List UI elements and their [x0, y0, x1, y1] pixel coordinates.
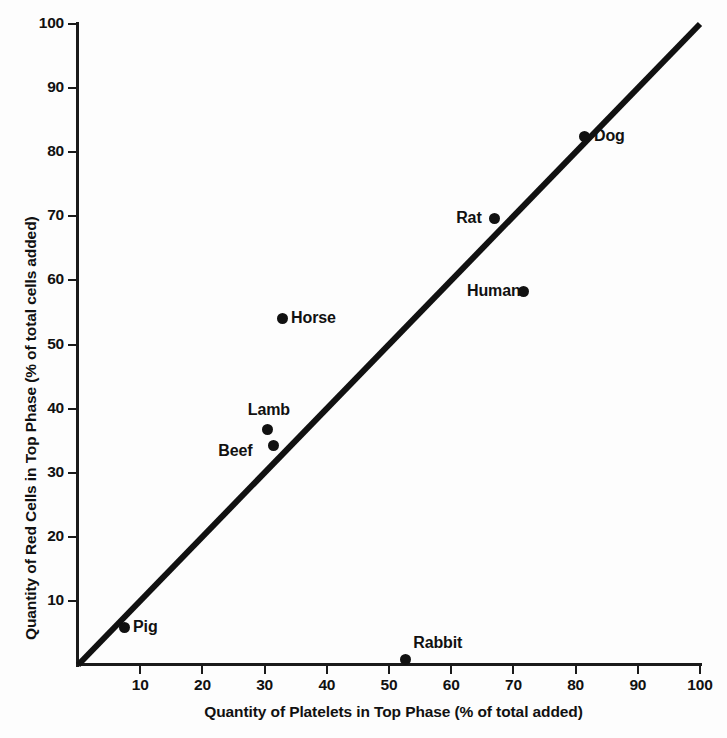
x-tick-label: 50 — [369, 676, 409, 694]
x-tick-label: 70 — [493, 676, 533, 694]
y-tick-mark — [68, 600, 76, 602]
x-tick-mark — [512, 666, 514, 674]
data-point-rabbit[interactable] — [400, 654, 411, 665]
y-tick-mark — [68, 151, 76, 153]
y-tick-label: 80 — [24, 142, 64, 160]
x-tick-label: 80 — [556, 676, 596, 694]
y-tick-mark — [68, 408, 76, 410]
y-tick-mark — [68, 23, 76, 25]
x-tick-mark — [575, 666, 577, 674]
y-axis-line — [76, 22, 79, 667]
x-tick-mark — [388, 666, 390, 674]
x-tick-mark — [264, 666, 266, 674]
y-tick-label: 100 — [24, 14, 64, 32]
x-axis-title: Quantity of Platelets in Top Phase (% of… — [0, 703, 727, 721]
data-point-label-horse: Horse — [291, 309, 336, 327]
x-tick-label: 100 — [680, 676, 720, 694]
x-tick-mark — [699, 666, 701, 674]
x-tick-mark — [637, 666, 639, 674]
x-tick-label: 10 — [120, 676, 160, 694]
x-tick-mark — [326, 666, 328, 674]
data-point-pig[interactable] — [119, 622, 130, 633]
y-tick-mark — [68, 215, 76, 217]
x-tick-label: 90 — [618, 676, 658, 694]
data-point-dog[interactable] — [579, 131, 590, 142]
data-point-label-lamb: Lamb — [248, 401, 290, 419]
data-point-beef[interactable] — [268, 440, 279, 451]
data-point-lamb[interactable] — [262, 424, 273, 435]
data-point-label-human: Human — [467, 282, 521, 300]
plot-area: 102030405060708090100 102030405060708090… — [0, 0, 727, 738]
y-tick-mark — [68, 87, 76, 89]
x-tick-mark — [139, 666, 141, 674]
x-tick-label: 60 — [431, 676, 471, 694]
data-point-label-dog: Dog — [594, 127, 625, 145]
x-tick-mark — [450, 666, 452, 674]
y-tick-mark — [68, 472, 76, 474]
x-tick-label: 40 — [307, 676, 347, 694]
y-tick-label: 90 — [24, 78, 64, 96]
data-point-label-beef: Beef — [218, 442, 252, 460]
x-tick-label: 20 — [182, 676, 222, 694]
x-tick-label: 30 — [245, 676, 285, 694]
data-point-horse[interactable] — [277, 313, 288, 324]
data-point-label-rabbit: Rabbit — [413, 634, 462, 652]
x-tick-mark — [201, 666, 203, 674]
data-point-rat[interactable] — [489, 213, 500, 224]
y-tick-mark — [68, 344, 76, 346]
data-point-label-pig: Pig — [133, 618, 158, 636]
identity-reference-line — [0, 0, 727, 738]
y-tick-mark — [68, 536, 76, 538]
scatter-plot-figure: 102030405060708090100 102030405060708090… — [0, 0, 727, 738]
y-axis-title: Quantity of Red Cells in Top Phase (% of… — [22, 216, 40, 640]
data-point-label-rat: Rat — [456, 209, 481, 227]
y-tick-mark — [68, 279, 76, 281]
